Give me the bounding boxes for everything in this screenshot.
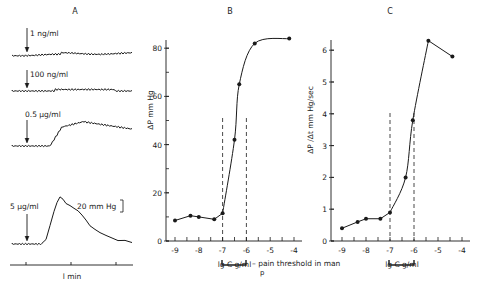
pressure-trace xyxy=(12,52,132,56)
panel-a-label: A xyxy=(72,7,78,16)
data-point xyxy=(173,219,177,223)
x-tick-label: -6 xyxy=(243,246,251,255)
time-label: l min xyxy=(63,272,82,281)
data-curve xyxy=(223,38,290,213)
y-tick-label: 0 xyxy=(322,237,327,246)
dose-label: 100 ng/ml xyxy=(30,70,68,79)
panel-c-chart: C0123456-9-8-7-6-5-4lg C g/mlΔP /Δt mm H… xyxy=(306,7,470,269)
dose-label: 0.5 µg/ml xyxy=(25,110,61,119)
x-tick-label: -4 xyxy=(458,246,466,255)
y-tick-label: 1 xyxy=(322,205,327,214)
x-tick-label: -4 xyxy=(290,246,298,255)
y-axis-label: ΔP mm Hg xyxy=(146,90,155,130)
data-point xyxy=(356,220,360,224)
injection-arrow-icon xyxy=(25,83,29,88)
pressure-trace xyxy=(12,89,132,92)
panel-a-traces: A1 ng/ml100 ng/ml0.5 µg/ml5 µg/ml20 mm H… xyxy=(10,7,133,281)
y-tick-label: 5 xyxy=(322,78,327,87)
data-point xyxy=(340,226,344,230)
figure: A1 ng/ml100 ng/ml0.5 µg/ml5 µg/ml20 mm H… xyxy=(0,0,477,293)
x-tick-label: -8 xyxy=(362,246,370,255)
data-point xyxy=(221,211,225,215)
data-point xyxy=(450,55,454,59)
pain-threshold-subscript: p xyxy=(260,269,265,277)
data-point xyxy=(426,39,430,43)
injection-arrow-icon xyxy=(25,47,29,52)
data-point xyxy=(253,41,257,45)
x-tick-label: -9 xyxy=(171,246,179,255)
injection-arrow-icon xyxy=(25,138,29,143)
pain-threshold-label: – pain threshold in man xyxy=(252,259,341,268)
panel-b-chart: B020406080-9-8-7-6-5-4lg C g/mlΔP mm Hg xyxy=(146,7,302,269)
y-tick-label: 0 xyxy=(157,237,162,246)
y-tick-label: 4 xyxy=(322,110,327,119)
x-tick-label: -5 xyxy=(266,246,274,255)
y-tick-label: 2 xyxy=(322,173,327,182)
data-point xyxy=(364,217,368,221)
x-tick-label: -6 xyxy=(410,246,418,255)
data-point xyxy=(237,82,241,86)
y-axis-label: ΔP /Δt mm Hg/sec xyxy=(306,86,315,154)
x-tick-label: -9 xyxy=(338,246,346,255)
x-tick-label: -7 xyxy=(219,246,227,255)
pressure-trace xyxy=(12,121,132,147)
data-point xyxy=(233,138,237,142)
dose-label: 5 µg/ml xyxy=(10,202,39,211)
y-tick-label: 20 xyxy=(152,189,162,198)
injection-arrow-icon xyxy=(25,236,29,241)
data-point xyxy=(212,217,216,221)
data-line xyxy=(428,41,452,57)
x-tick-label: -5 xyxy=(434,246,442,255)
y-tick-label: 3 xyxy=(322,142,327,151)
panel-title: C xyxy=(387,7,393,16)
panel-title: B xyxy=(227,7,233,16)
y-tick-label: 6 xyxy=(322,46,327,55)
data-point xyxy=(411,118,415,122)
x-tick-label: -7 xyxy=(386,246,394,255)
data-point xyxy=(287,37,291,41)
data-point xyxy=(197,215,201,219)
y-tick-label: 80 xyxy=(152,44,162,53)
scale-bar-label: 20 mm Hg xyxy=(77,202,117,211)
data-curve xyxy=(390,41,428,213)
dose-label: 1 ng/ml xyxy=(30,29,59,38)
data-point xyxy=(404,175,408,179)
x-tick-label: -8 xyxy=(195,246,203,255)
data-point xyxy=(188,214,192,218)
data-point xyxy=(388,210,392,214)
data-point xyxy=(378,217,382,221)
y-tick-label: 40 xyxy=(152,141,162,150)
scale-bar xyxy=(120,200,123,212)
